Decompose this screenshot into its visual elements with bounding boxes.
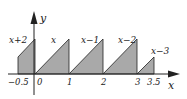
region-x-minus-3 [137,57,154,74]
label-x-minus-2: x−2 [118,35,137,45]
label-x-minus-3: x−3 [151,46,170,56]
label-x: x [51,35,56,45]
sawtooth-area-diagram: y x x+2 x x−1 x−2 x−3 −0.5 0 1 2 3 3.5 [0,0,187,99]
label-x-minus-1: x−1 [81,35,99,45]
tick-1: 1 [67,77,72,87]
tick-0: 0 [37,77,43,87]
tick-2: 2 [100,77,106,87]
y-axis-arrow-icon [31,11,38,24]
x-axis-label: x [168,79,175,92]
tick-3-5: 3.5 [147,77,161,87]
y-axis-label: y [39,12,47,25]
tick-3: 3 [135,77,140,87]
label-x-plus-2: x+2 [9,35,28,45]
x-axis-arrow-icon [168,71,180,78]
tick-minus-0-5: −0.5 [8,77,29,87]
